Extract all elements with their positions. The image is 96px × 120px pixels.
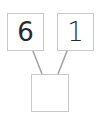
connector-left	[33, 51, 42, 74]
connector-right	[58, 51, 67, 74]
part-right-value: 1	[67, 17, 84, 47]
part-left-value: 6	[17, 17, 34, 47]
part-box-left: 6	[7, 13, 44, 51]
part-box-right: 1	[57, 13, 94, 51]
whole-box[interactable]	[31, 74, 69, 112]
